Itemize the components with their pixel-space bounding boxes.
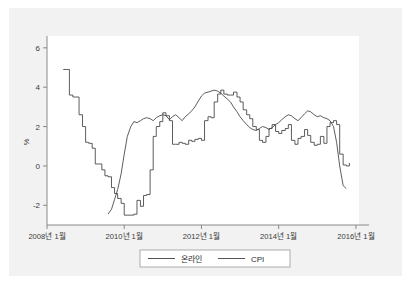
- x-tick-label: 2014년 1월: [260, 231, 297, 241]
- y-axis: -20246: [33, 36, 47, 225]
- chart-svg: -20246 2008년 1월2010년 1월2012년 1월2014년 1월2…: [0, 0, 410, 291]
- y-tick-label: 4: [36, 83, 41, 92]
- y-tick-group: -20246: [33, 44, 47, 211]
- legend-label-cpi: CPI: [251, 255, 264, 264]
- y-tick-label: -2: [33, 201, 41, 210]
- chart-figure: -20246 2008년 1월2010년 1월2012년 1월2014년 1월2…: [0, 0, 410, 291]
- x-tick-label: 2012년 1월: [183, 231, 220, 241]
- x-tick-group: 2008년 1월2010년 1월2012년 1월2014년 1월2016년 1월: [28, 225, 374, 241]
- plot-area-background: [47, 36, 359, 225]
- legend-label-online: 온라인: [181, 254, 202, 264]
- y-tick-label: 2: [36, 123, 41, 132]
- x-tick-label: 2016년 1월: [337, 231, 374, 241]
- x-tick-label: 2010년 1월: [106, 231, 143, 241]
- y-axis-title: %: [22, 138, 31, 145]
- y-tick-label: 6: [36, 44, 41, 53]
- y-tick-label: 0: [36, 162, 41, 171]
- x-tick-label: 2008년 1월: [28, 231, 65, 241]
- x-axis: 2008년 1월2010년 1월2012년 1월2014년 1월2016년 1월: [28, 225, 374, 241]
- legend: 온라인 CPI: [140, 250, 290, 267]
